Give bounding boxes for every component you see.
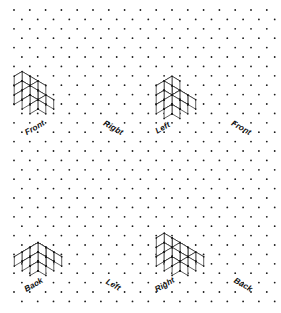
grid-dot xyxy=(13,28,15,30)
grid-dot xyxy=(250,160,252,162)
grid-dot xyxy=(68,75,70,77)
grid-dot xyxy=(68,56,70,58)
grid-dot xyxy=(132,37,134,39)
grid-dot xyxy=(179,56,181,58)
cube-vertex-dot xyxy=(179,242,181,244)
cube-figure-bottom-left xyxy=(13,242,62,277)
grid-dot xyxy=(140,272,142,274)
grid-dot xyxy=(61,254,63,256)
cube-vertex-dot xyxy=(187,94,189,96)
grid-dot xyxy=(155,47,157,49)
grid-dot xyxy=(100,94,102,96)
grid-dot xyxy=(226,75,228,77)
grid-dot xyxy=(45,291,47,293)
grid-dot xyxy=(92,66,94,68)
grid-dot xyxy=(274,188,276,190)
grid-dot xyxy=(179,301,181,303)
grid-dot xyxy=(242,301,244,303)
cube-vertex-dot xyxy=(37,251,39,253)
grid-dot xyxy=(61,66,63,68)
grid-dot xyxy=(234,272,236,274)
grid-dot xyxy=(108,254,110,256)
cube-vertex-dot xyxy=(53,99,55,101)
grid-dot xyxy=(53,131,55,133)
grid-dot xyxy=(179,37,181,39)
grid-dot xyxy=(219,254,221,256)
cube-vertex-dot xyxy=(195,270,197,272)
cube-vertex-dot xyxy=(163,251,165,253)
grid-dot xyxy=(84,282,86,284)
grid-dot xyxy=(155,160,157,162)
grid-dot xyxy=(274,225,276,227)
grid-dot xyxy=(21,207,23,209)
grid-dot xyxy=(100,56,102,58)
grid-dot xyxy=(258,207,260,209)
grid-dot xyxy=(274,150,276,152)
grid-dot xyxy=(37,225,39,227)
cube-vertex-dot xyxy=(61,265,63,267)
grid-dot xyxy=(147,207,149,209)
grid-dot xyxy=(258,56,260,58)
grid-dot xyxy=(171,291,173,293)
grid-dot xyxy=(100,131,102,133)
grid-dot xyxy=(13,160,15,162)
cube-vertex-dot xyxy=(155,94,157,96)
grid-dot xyxy=(68,131,70,133)
cube-vertex-dot xyxy=(179,89,181,91)
grid-dot xyxy=(116,301,118,303)
cube-vertex-dot xyxy=(37,80,39,82)
grid-dot xyxy=(84,150,86,152)
grid-dot xyxy=(274,169,276,171)
grid-dot xyxy=(234,28,236,30)
grid-dot xyxy=(250,254,252,256)
grid-dot xyxy=(219,141,221,143)
grid-dot xyxy=(274,37,276,39)
grid-dot xyxy=(92,9,94,11)
grid-dot xyxy=(29,197,31,199)
cube-vertex-dot xyxy=(163,89,165,91)
grid-dot xyxy=(53,37,55,39)
cube-vertex-dot xyxy=(195,108,197,110)
grid-dot xyxy=(53,75,55,77)
label-front: Front xyxy=(230,119,253,138)
grid-dot xyxy=(179,75,181,77)
cube-vertex-dot xyxy=(21,99,23,101)
grid-dot xyxy=(219,160,221,162)
grid-dot xyxy=(53,94,55,96)
cube-vertex-dot xyxy=(21,251,23,253)
cube-vertex-dot xyxy=(179,99,181,101)
grid-dot xyxy=(258,37,260,39)
grid-dot xyxy=(61,103,63,105)
grid-dot xyxy=(100,301,102,303)
grid-dot xyxy=(45,47,47,49)
cube-vertex-dot xyxy=(203,265,205,267)
grid-dot xyxy=(92,272,94,274)
grid-dot xyxy=(61,216,63,218)
cube-vertex-dot xyxy=(13,75,15,77)
cube-vertex-dot xyxy=(155,237,157,239)
grid-dot xyxy=(108,28,110,30)
cube-vertex-dot xyxy=(163,118,165,120)
grid-dot xyxy=(242,56,244,58)
label-right: Right xyxy=(153,275,176,294)
grid-dot xyxy=(61,178,63,180)
grid-dot xyxy=(219,197,221,199)
grid-dot xyxy=(187,178,189,180)
grid-dot xyxy=(140,235,142,237)
grid-dot xyxy=(179,282,181,284)
grid-dot xyxy=(124,103,126,105)
grid-dot xyxy=(211,207,213,209)
cube-vertex-dot xyxy=(195,99,197,101)
grid-dot xyxy=(163,188,165,190)
grid-dot xyxy=(234,291,236,293)
grid-dot xyxy=(274,56,276,58)
grid-dot xyxy=(132,207,134,209)
cube-vertex-dot xyxy=(163,99,165,101)
grid-dot xyxy=(155,66,157,68)
grid-dot xyxy=(266,28,268,30)
grid-dot xyxy=(179,207,181,209)
grid-dot xyxy=(116,37,118,39)
grid-dot xyxy=(195,225,197,227)
grid-dot xyxy=(84,263,86,265)
cube-figure-bottom-right xyxy=(155,232,204,276)
